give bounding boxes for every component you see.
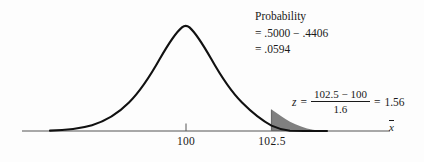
normal-distribution-figure: 100 102.5 x Probability = .5000 − .4406 … — [0, 0, 424, 162]
probability-subtraction-line: = .5000 − .4406 — [255, 25, 328, 42]
axis-tick-label-cutoff: 102.5 — [250, 135, 294, 147]
z-score-formula: z = 102.5 − 100 1.6 = 1.56 — [292, 88, 405, 116]
z-result-equals-sign: = — [374, 96, 381, 108]
axis-variable-symbol: x — [389, 120, 394, 133]
z-fraction-denominator: 1.6 — [311, 101, 370, 115]
z-equals-sign: = — [300, 96, 307, 108]
probability-annotation: Probability = .5000 − .4406 = .0594 — [255, 8, 328, 58]
probability-title: Probability — [255, 8, 328, 25]
z-result-value: 1.56 — [384, 96, 404, 108]
distribution-plot — [0, 0, 424, 162]
z-symbol: z — [292, 96, 296, 108]
probability-result-line: = .0594 — [255, 41, 328, 58]
axis-variable-label: x — [389, 120, 394, 133]
z-fraction-numerator: 102.5 − 100 — [311, 88, 370, 101]
axis-tick-label-mean: 100 — [168, 135, 204, 147]
z-fraction: 102.5 − 100 1.6 — [311, 88, 370, 116]
